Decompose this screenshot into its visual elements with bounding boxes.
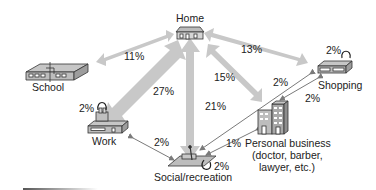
node-label-shopping: Shopping [318,80,362,92]
edge-label-work-social: 2% [154,137,169,149]
edge-label-home-school: 11% [124,51,144,63]
school-icon [26,62,88,82]
edge-label-shopping-personal: 2% [305,93,320,105]
node-label-personal-line1: Personal business [245,138,331,150]
node-label-personal-line2: (doctor, barber, [252,150,323,162]
arrow-home-work [104,40,186,124]
bottom-rule [23,188,98,190]
node-label-personal-line3: lawyer, etc.) [259,162,315,174]
home-icon [176,27,204,39]
self-loop-social: 2% [214,161,229,173]
node-label-school: School [32,82,64,94]
self-loop-work: 2% [79,103,94,115]
node-label-work: Work [92,136,116,148]
edge-label-home-personal: 15% [214,72,235,84]
office-building-icon [258,101,288,134]
node-label-home: Home [175,13,205,25]
trip-distribution-diagram: Home School Work Shopping Social/recreat… [0,0,376,190]
node-label-social: Social/recreation [154,172,232,184]
edge-label-shopping-social: 2% [273,77,288,89]
edge-label-personal-social: 1% [226,138,241,150]
edge-label-home-shopping: 13% [241,44,262,56]
self-loop-shopping: 2% [326,45,341,57]
edge-label-home-social: 21% [205,101,226,113]
edge-label-home-work: 27% [153,86,174,98]
